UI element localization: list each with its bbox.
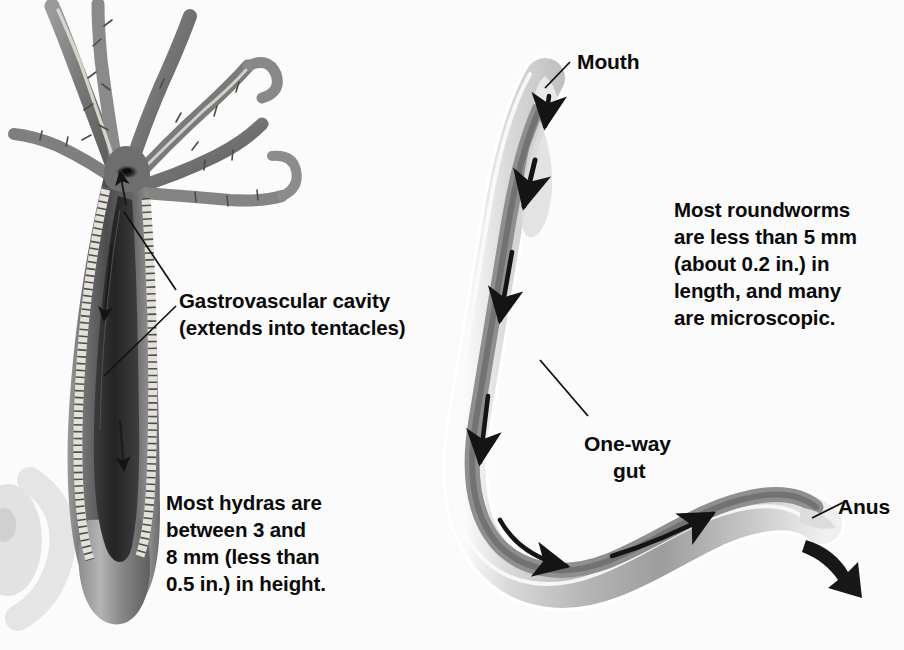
label-one-way-gut-line2: gut: [613, 457, 645, 484]
label-gastrovascular-cavity-line1: Gastrovascular cavity: [179, 288, 390, 315]
roundworm-size-note-line1: Most roundworms: [674, 196, 850, 223]
label-gastrovascular-cavity-line2: (extends into tentacles): [179, 315, 406, 342]
roundworm-size-note-line4: length, and many: [674, 277, 841, 304]
label-one-way-gut-line1: One-way: [584, 430, 671, 457]
roundworm-size-note-line2: are less than 5 mm: [674, 223, 857, 250]
anus-exit-arrow: [802, 540, 862, 598]
figure-canvas: Mouth Gastrovascular cavity (extends int…: [0, 0, 904, 650]
hydra-size-note-line1: Most hydras are: [166, 489, 322, 516]
gut-leader-line: [540, 360, 588, 416]
roundworm-size-note-line3: (about 0.2 in.) in: [674, 250, 829, 277]
hydra-size-note-line2: between 3 and: [166, 516, 306, 543]
background-bleed-object: [0, 480, 63, 618]
roundworm-size-note-line5: are microscopic.: [674, 304, 835, 331]
hydra-size-note-line3: 8 mm (less than: [166, 543, 319, 570]
label-mouth: Mouth: [577, 48, 639, 75]
hydra-size-note-line4: 0.5 in.) in height.: [166, 570, 326, 597]
label-anus: Anus: [838, 493, 890, 520]
hydra-tentacles: [14, 4, 297, 206]
